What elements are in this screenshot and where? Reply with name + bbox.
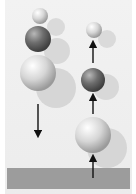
- ball-shadow: [47, 18, 65, 36]
- small-ball: [86, 22, 102, 38]
- right-stack: [75, 22, 127, 178]
- large-ball: [20, 55, 56, 91]
- left-stack: [20, 8, 76, 134]
- large-ball: [75, 117, 111, 153]
- medium-ball: [81, 68, 105, 92]
- small-ball: [32, 8, 48, 24]
- diagram-canvas: [0, 0, 136, 194]
- medium-ball: [25, 26, 51, 52]
